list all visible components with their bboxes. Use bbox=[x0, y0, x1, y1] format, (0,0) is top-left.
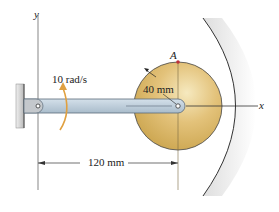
disk-pin bbox=[176, 104, 180, 108]
diagram-figure: y x A 10 rad/s 40 mm 120 mm bbox=[0, 0, 279, 212]
fixed-wall bbox=[16, 84, 24, 128]
length-label: 120 mm bbox=[88, 157, 124, 168]
point-a-label: A bbox=[170, 50, 177, 61]
disk bbox=[134, 62, 222, 190]
y-axis-label: y bbox=[34, 9, 39, 20]
rotating-bar bbox=[24, 99, 185, 113]
fixed-pin bbox=[36, 104, 40, 108]
diagram-canvas bbox=[0, 0, 279, 212]
angular-velocity-label: 10 rad/s bbox=[52, 74, 87, 85]
x-axis-label: x bbox=[259, 100, 264, 111]
radius-label: 40 mm bbox=[143, 84, 174, 95]
